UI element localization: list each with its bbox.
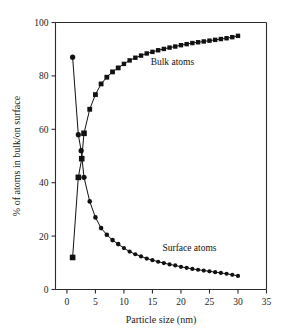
x-tick-label: 10 [119,297,129,307]
marker-point [139,53,143,57]
marker-point [173,263,177,267]
x-tick-label: 25 [205,297,215,307]
marker-point [207,38,211,42]
series-label-circle: Surface atoms [162,243,216,253]
marker-point [162,47,166,51]
y-tick-label: 60 [39,125,49,135]
marker-point [104,75,109,80]
y-tick-label: 40 [39,178,49,188]
marker-point [145,256,149,260]
y-tick-label: 80 [39,71,49,81]
marker-point [87,107,92,112]
marker-point [116,65,121,70]
series-annotations: Surface atomsBulk atoms [151,57,217,253]
marker-point [190,267,194,271]
marker-point [110,238,115,243]
marker-point [79,156,85,162]
marker-point [207,269,211,273]
data-markers [70,34,240,278]
x-tick-label: 5 [93,297,98,307]
marker-point [99,226,104,231]
marker-point [76,175,82,181]
marker-point [236,274,240,278]
marker-point [116,242,121,247]
marker-point [236,34,240,38]
marker-point [133,56,137,60]
marker-point [184,42,188,46]
marker-point [179,43,183,47]
marker-point [87,199,92,204]
marker-point [81,175,86,180]
marker-point [213,270,217,274]
marker-point [70,255,76,261]
series-label-square: Bulk atoms [151,57,195,67]
marker-point [213,38,217,42]
marker-point [202,39,206,43]
curve-square [73,36,238,258]
marker-point [81,131,87,137]
marker-point [156,48,160,52]
marker-point [122,246,126,250]
marker-point [105,232,110,237]
marker-point [93,92,98,97]
marker-point [76,132,81,137]
marker-point [79,148,84,153]
x-tick-label: 0 [65,297,70,307]
marker-point [150,50,154,54]
x-tick-label: 20 [176,297,186,307]
marker-point [145,51,149,55]
marker-point [219,37,223,41]
marker-point [167,45,171,49]
marker-point [219,271,223,275]
x-tick-label: 15 [148,297,158,307]
marker-point [128,249,132,253]
marker-point [110,70,115,75]
marker-point [139,254,143,258]
marker-point [224,36,228,40]
marker-point [122,62,126,66]
marker-point [133,252,137,256]
y-tick-label: 100 [34,18,49,28]
chart-figure: 05101520253035020406080100 Surface atoms… [0,0,304,336]
marker-point [99,82,104,87]
y-axis-title: % of atoms in bulk/on surface [11,95,22,216]
x-tick-label: 30 [233,297,243,307]
marker-point [224,272,228,276]
data-curves [73,36,238,276]
marker-point [93,215,98,220]
y-tick-label: 0 [44,285,49,295]
marker-point [230,273,234,277]
marker-point [127,58,131,62]
marker-point [162,261,166,265]
marker-point [185,266,189,270]
marker-point [167,262,171,266]
marker-point [179,265,183,269]
marker-point [70,55,75,60]
x-axis-title: Particle size (nm) [126,314,197,326]
marker-point [202,268,206,272]
chart-canvas: 05101520253035020406080100 Surface atoms… [0,0,304,336]
marker-point [230,35,234,39]
y-tick-label: 20 [39,232,49,242]
marker-point [190,41,194,45]
marker-point [196,40,200,44]
marker-point [156,260,160,264]
x-tick-label: 35 [262,297,272,307]
marker-point [150,258,154,262]
marker-point [196,268,200,272]
marker-point [173,44,177,48]
